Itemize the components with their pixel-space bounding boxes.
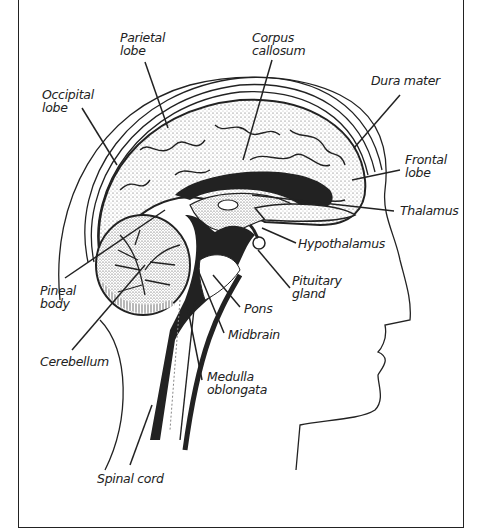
label-spinal-cord: Spinal cord xyxy=(97,472,164,485)
label-pons: Pons xyxy=(244,302,272,315)
label-dura-mater: Dura mater xyxy=(371,74,440,87)
label-pineal-body: Pineal body xyxy=(40,284,76,310)
label-midbrain: Midbrain xyxy=(228,328,280,341)
cerebellum xyxy=(96,215,190,315)
label-hypothalamus: Hypothalamus xyxy=(298,237,385,250)
label-cerebellum: Cerebellum xyxy=(40,355,109,368)
label-occipital-lobe: Occipital lobe xyxy=(42,88,94,114)
label-pituitary-gland: Pituitary gland xyxy=(292,274,342,300)
label-frontal-lobe: Frontal lobe xyxy=(405,153,447,179)
label-thalamus: Thalamus xyxy=(400,204,459,217)
label-medulla-oblongata: Medulla oblongata xyxy=(207,370,267,396)
pituitary-shape xyxy=(253,237,265,249)
label-corpus-callosum: Corpus callosum xyxy=(252,31,305,57)
label-parietal-lobe: Parietal lobe xyxy=(120,31,165,57)
